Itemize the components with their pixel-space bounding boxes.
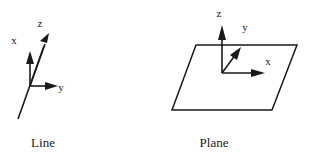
figure-canvas: x z y Line z y (0, 0, 312, 157)
line-panel-z-axis-label: z (38, 17, 43, 29)
plane-panel-y-axis-label: y (242, 21, 248, 33)
plane-panel-y-axis (222, 47, 241, 73)
y-axis-arrowhead (45, 82, 58, 90)
y-axis-arrowhead (230, 47, 241, 60)
plane-panel-z-axis (218, 25, 226, 73)
x-axis-arrowhead (251, 69, 265, 77)
z-axis-shaft (30, 44, 45, 86)
plane-panel: z y x Plane (172, 7, 297, 150)
plane-panel-x-axis (222, 69, 265, 77)
line-panel-z-axis (30, 33, 49, 86)
plane-panel-z-axis-label: z (217, 7, 222, 19)
line-panel-x-axis (26, 51, 34, 86)
plane-panel-x-axis-label: x (265, 55, 271, 67)
line-panel-y-axis (30, 82, 58, 90)
z-axis-arrowhead (218, 25, 226, 40)
z-axis-arrowhead (40, 33, 49, 43)
line-panel-x-axis-label: x (11, 34, 17, 46)
line-panel: x z y Line (11, 17, 64, 150)
line-caption: Line (31, 135, 55, 150)
plane-caption: Plane (200, 135, 229, 150)
geometry-figure: x z y Line z y (0, 0, 312, 157)
line-panel-y-axis-label: y (58, 81, 64, 93)
x-axis-arrowhead (26, 51, 34, 64)
